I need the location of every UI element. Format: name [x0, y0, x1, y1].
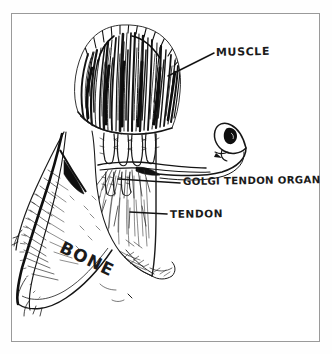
muscle-structure: [75, 21, 181, 134]
leader-line-tendon: [130, 212, 167, 214]
bone-structure: [12, 132, 112, 316]
label-tendon: TENDON: [170, 208, 223, 219]
label-muscle: MUSCLE: [216, 46, 270, 58]
figure-page: MUSCLE GOLGI TENDON ORGAN TENDON BONE: [0, 0, 332, 354]
muscle-tendon-junction: [100, 133, 159, 196]
label-golgi-tendon-organ: GOLGI TENDON ORGAN: [183, 175, 321, 187]
